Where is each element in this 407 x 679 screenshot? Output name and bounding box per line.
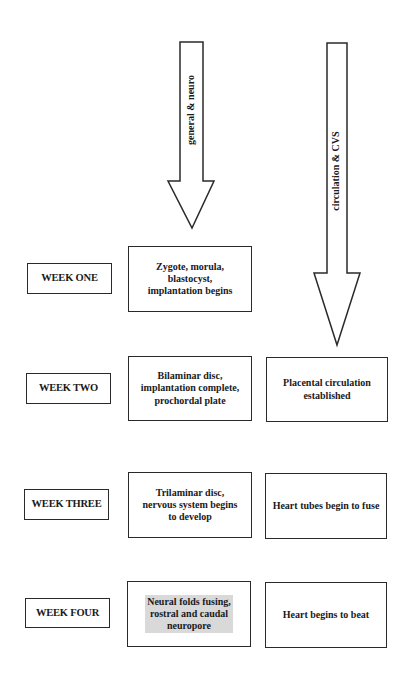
week-two-circulation-cvs-box: Placental circulation established <box>266 357 388 422</box>
week-three-general-neuro-box: Trilaminar disc, nervous system begins t… <box>128 472 252 538</box>
week-two-circulation-cvs-text: Placental circulation established <box>283 377 371 401</box>
week-one-general-neuro-text: Zygote, morula, blastocyst, implantation… <box>148 261 233 298</box>
week-two-label-box: WEEK TWO <box>26 373 111 404</box>
week-two-label: WEEK TWO <box>39 382 98 395</box>
week-four-general-neuro-text: Neural folds fusing, rostral and caudal … <box>145 595 233 634</box>
week-one-label: WEEK ONE <box>41 272 97 285</box>
circulation-cvs-arrow-label: circulation & CVS <box>330 121 344 221</box>
week-four-circulation-cvs-box: Heart begins to beat <box>265 582 387 648</box>
week-four-circulation-cvs-text: Heart begins to beat <box>283 609 369 621</box>
week-two-general-neuro-box: Bilaminar disc, implantation complete, p… <box>128 356 252 421</box>
week-four-label: WEEK FOUR <box>36 607 99 620</box>
week-four-label-box: WEEK FOUR <box>25 598 110 628</box>
week-three-label: WEEK THREE <box>32 498 102 511</box>
week-two-general-neuro-text: Bilaminar disc, implantation complete, p… <box>141 370 239 407</box>
week-three-circulation-cvs-box: Heart tubes begin to fuse <box>265 473 387 539</box>
week-three-label-box: WEEK THREE <box>24 489 109 520</box>
week-three-general-neuro-text: Trilaminar disc, nervous system begins t… <box>142 487 237 524</box>
week-one-label-box: WEEK ONE <box>27 263 112 294</box>
arrows-layer <box>0 0 407 679</box>
week-one-general-neuro-box: Zygote, morula, blastocyst, implantation… <box>128 246 252 312</box>
week-four-general-neuro-box: Neural folds fusing, rostral and caudal … <box>127 581 251 647</box>
week-three-circulation-cvs-text: Heart tubes begin to fuse <box>273 500 380 512</box>
general-neuro-arrow-label: general & neuro <box>185 70 199 150</box>
